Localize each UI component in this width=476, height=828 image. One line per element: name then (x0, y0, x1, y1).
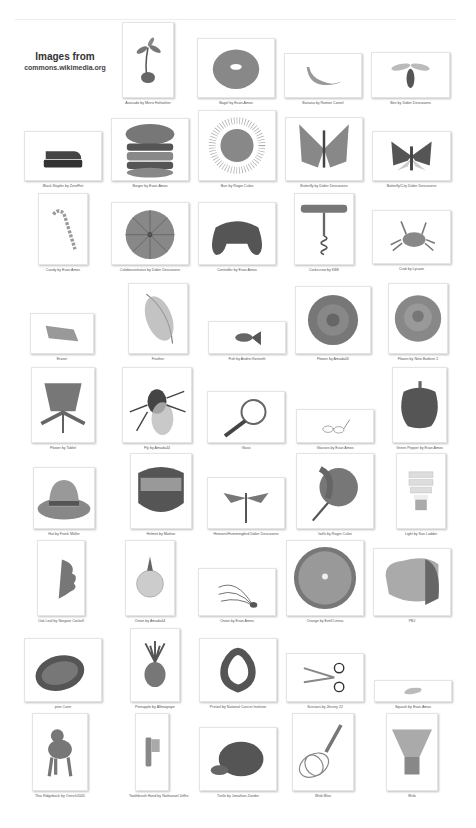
image-card-eraser: Eraser (30, 313, 94, 362)
image-card-pine-cone: pine Cone (24, 638, 102, 710)
image-caption: Flower by Nino Barbieri 2 (382, 356, 454, 362)
image-caption: Burger by Evan-Amos (105, 183, 195, 189)
magnifier-image (207, 391, 285, 443)
chives-image (198, 568, 276, 616)
image-card-pepper: Green Pepper by Evan Amos (392, 367, 447, 451)
image-caption: Thai Ridgeback by Ostrich2005 (26, 793, 94, 799)
sea-urchin-image (111, 202, 189, 265)
image-caption: Bagel by Evan-Amos (191, 100, 281, 106)
image-card-iris: Iwills by Roger Culos (296, 453, 374, 537)
image-caption: pine Cone (18, 704, 108, 710)
image-caption: Black Stapler by ZeroFlet (18, 183, 108, 189)
fish-image (208, 321, 286, 354)
dog-image (32, 713, 88, 791)
image-caption: PBJ (367, 618, 457, 624)
image-caption: Oak Leaf by Norgate Cockell (31, 618, 91, 624)
toothbrush-image (135, 713, 169, 791)
stapler-image (24, 131, 102, 181)
image-card-burr: Burr by Roger Culos (198, 110, 276, 189)
butterfly-image (285, 117, 363, 181)
image-card-bee: Bee by Didier Descouens (371, 52, 450, 106)
image-card-whisk: Wisk Blue (292, 713, 354, 799)
image-caption: Corkscrew by KBS (288, 267, 360, 273)
image-card-crab: Crab by Lycaon (372, 210, 451, 272)
iris-image (296, 453, 374, 529)
crab-image (372, 210, 451, 264)
image-card-scissors: Scissors by Jlevrey 22 (286, 653, 364, 710)
heading-source: commons.wikimedia.org (16, 63, 114, 73)
image-card-banana: Banana by Ramon Cornel (284, 53, 362, 106)
image-caption: Colobocentrotus by Didier Descouens (105, 267, 195, 273)
banana-image (284, 53, 362, 98)
helmet-image (130, 453, 192, 529)
image-card-bagel: Bagel by Evan-Amos (197, 38, 275, 106)
image-caption: Pineapple by Allmogrape (124, 704, 186, 710)
hat-image (33, 467, 95, 529)
butterfly-city-image (372, 131, 451, 181)
image-card-pretzel: Pretzel by National Cancer Institute (199, 638, 277, 710)
image-caption: Flower by Amada44 (289, 356, 377, 362)
eraser-image (30, 313, 94, 354)
image-card-fish: Fish by Andrei Kenneth (208, 321, 286, 362)
image-caption: Wisk (380, 793, 444, 799)
oak-leaf-image (37, 540, 85, 616)
turtle-image (199, 727, 277, 791)
image-caption: Eraser (24, 356, 100, 362)
image-card-toothbrush: Toothbrush Hand by Nathanael Jeffre (135, 713, 169, 799)
image-card-light: Light by Sun Ladder (396, 453, 446, 537)
image-card-hummingbird-moth: Hemaris/Hummingbird Didier Descouens (207, 477, 285, 537)
image-caption: Flower by Tablet (25, 445, 101, 451)
thistle-image (31, 367, 95, 443)
pretzel-image (199, 638, 277, 702)
image-caption: Controller by Evan Amos (192, 267, 282, 273)
page-heading: Images from commons.wikimedia.org (16, 50, 114, 73)
avocado-image (122, 22, 174, 98)
image-card-hat: Hat by Frank Müller (33, 467, 95, 537)
image-card-pineapple: Pineapple by Allmogrape (130, 628, 180, 710)
image-card-oak-leaf: Oak Leaf by Norgate Cockell (37, 540, 85, 624)
image-card-helmet: Helmet by Mattise (130, 453, 192, 537)
image-caption: Burr by Roger Culos (192, 183, 282, 189)
image-card-burger: Burger by Evan-Amos (111, 118, 189, 189)
matcha-whisk-image (386, 713, 438, 791)
flower-image (295, 286, 371, 354)
burr-image (198, 110, 276, 181)
image-caption: Wisk Blue (286, 793, 360, 799)
image-caption: Scissors by Jlevrey 22 (280, 704, 370, 710)
squash-image (374, 680, 452, 702)
controller-image (198, 202, 276, 265)
image-caption: Iwills by Roger Culos (290, 531, 380, 537)
image-caption: Hat by Frank Müller (27, 531, 101, 537)
image-card-magnifier: Glass (207, 391, 285, 451)
image-caption: Turtle by Jonathan Zander (193, 793, 283, 799)
hummingbird-moth-image (207, 477, 285, 529)
image-card-glasses: Glasses by Evan Amos (296, 409, 374, 451)
image-card-corkscrew: Corkscrew by KBS (294, 193, 354, 273)
image-caption: Banana by Ramon Cornel (278, 100, 368, 106)
bee-image (371, 52, 450, 98)
fly-image (122, 367, 192, 443)
image-caption: Butterfly/City Didier Descouens (366, 183, 457, 189)
bagel-image (197, 38, 275, 98)
image-card-flower: Flower by Amada44 (295, 286, 371, 362)
image-caption: Avocado by Mervi Hohtahter (116, 100, 180, 106)
image-caption: Helmet by Mattise (124, 531, 198, 537)
image-caption: Bee by Didier Descouens (365, 100, 456, 106)
image-card-thistle: Flower by Tablet (31, 367, 95, 451)
image-caption: Light by Sun Ladder (390, 531, 452, 537)
feather-image (128, 283, 188, 354)
burger-image (111, 118, 189, 181)
image-caption: Squash by Evan Amos (368, 704, 458, 710)
image-card-chives: Onion by Evan Amos (198, 568, 276, 624)
image-card-stapler: Black Stapler by ZeroFlet (24, 131, 102, 189)
image-card-turtle: Turtle by Jonathan Zander (199, 727, 277, 799)
image-card-orange: Orange by Ezell Lenna (286, 540, 364, 624)
image-card-candy: Candy by Evan Amos (38, 193, 88, 273)
image-caption: Glasses by Evan Amos (290, 445, 380, 451)
glasses-image (296, 409, 374, 443)
image-caption: Candy by Evan Amos (32, 267, 94, 273)
candy-image (38, 193, 88, 265)
image-caption: Hemaris/Hummingbird Didier Descouens (201, 531, 291, 537)
corkscrew-image (294, 193, 354, 265)
image-card-fly: Fly by Amada44 (122, 367, 192, 451)
